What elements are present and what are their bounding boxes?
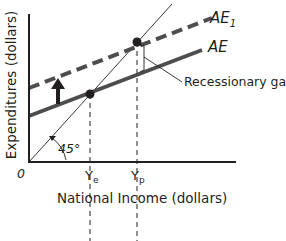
recessionary-gap-label: Recessionary gap (184, 74, 286, 89)
y-axis-title: Expenditures (dollars) (3, 11, 19, 160)
ae-label: AE (207, 38, 228, 56)
ae-diagram: AE1 AE Recessionary gap 45° 0 Ye Yp Nati… (0, 0, 286, 241)
x-axis-title: National Income (dollars) (57, 190, 227, 206)
angle-label: 45° (58, 141, 80, 156)
ye-equilibrium-point (86, 90, 95, 99)
shift-up-arrow-icon (51, 78, 65, 104)
yp-equilibrium-point (133, 38, 142, 47)
ae1-label: AE1 (209, 9, 236, 29)
ye-tick-label: Ye (84, 168, 99, 185)
recessionary-gap-bracket (139, 44, 182, 82)
yp-tick-label: Yp (130, 168, 145, 185)
origin-label: 0 (17, 166, 25, 181)
